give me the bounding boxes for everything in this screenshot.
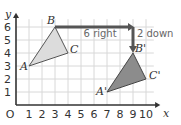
vertical-translation-label: 2 down (137, 28, 174, 39)
x-tick-label: 10 (139, 108, 153, 121)
x-axis-label: x (163, 107, 170, 120)
y-tick-label: 6 (4, 21, 11, 34)
y-axis-label: y (4, 8, 12, 21)
x-tick-label: 8 (117, 108, 124, 121)
y-tick-label: 4 (4, 47, 11, 60)
horizontal-translation-label: 6 right (84, 28, 117, 39)
y-tick-label: 3 (4, 60, 11, 73)
vertex-label: C' (149, 69, 160, 82)
vertex-label: C (70, 43, 79, 56)
triangle-shape (107, 53, 146, 92)
y-tick-label: 5 (4, 34, 11, 47)
vertex-label: A' (95, 85, 107, 98)
vertex-label: B' (134, 42, 146, 55)
y-tick-label: 1 (4, 86, 11, 99)
original-triangle (29, 27, 68, 66)
vertex-label: B (46, 14, 55, 27)
x-tick-label: 5 (78, 108, 85, 121)
triangle-shape (29, 27, 68, 66)
x-tick-label: 9 (130, 108, 137, 121)
origin-label: O (6, 108, 15, 121)
x-tick-label: 4 (65, 108, 72, 121)
y-tick-label: 2 (4, 73, 11, 86)
x-tick-label: 3 (52, 108, 59, 121)
x-axis-arrowhead-icon (155, 102, 160, 108)
x-tick-label: 2 (39, 108, 46, 121)
x-tick-label: 6 (91, 108, 98, 121)
image-triangle (107, 53, 146, 92)
x-tick-label: 7 (104, 108, 111, 121)
translation-diagram: 6 right2 down 12345678910123456OxyABCA'B… (0, 0, 181, 125)
y-axis-arrowhead-icon (13, 13, 19, 18)
vertex-label: A (19, 60, 28, 73)
x-tick-label: 1 (26, 108, 33, 121)
